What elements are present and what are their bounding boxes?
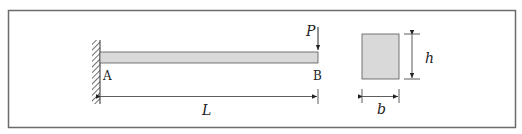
cross-section	[362, 34, 399, 79]
free-end-label-b: B	[313, 69, 322, 83]
diagram-canvas: P A B L h b	[0, 0, 522, 134]
load-label: P	[305, 23, 316, 39]
width-label: b	[377, 101, 386, 117]
length-label: L	[201, 102, 211, 118]
beam	[100, 52, 318, 63]
figure-frame	[9, 11, 516, 128]
fixed-support	[92, 40, 100, 104]
height-dimension	[404, 34, 420, 79]
height-label: h	[425, 50, 434, 66]
support-label-a: A	[102, 69, 112, 83]
